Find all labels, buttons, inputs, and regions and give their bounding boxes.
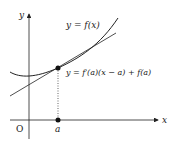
x-axis-label: x [162, 115, 167, 125]
a-label: a [55, 124, 60, 134]
tangent-diagram: y x O a y = f(x) y = f′(a)(x − a) + f(a) [0, 0, 176, 149]
tangent-point [56, 66, 61, 71]
tangent-line [10, 33, 116, 96]
y-axis-label: y [18, 10, 25, 20]
origin-label: O [16, 124, 23, 134]
curve-label: y = f(x) [65, 20, 100, 30]
tangent-label: y = f′(a)(x − a) + f(a) [65, 68, 151, 77]
a-point [56, 118, 61, 123]
